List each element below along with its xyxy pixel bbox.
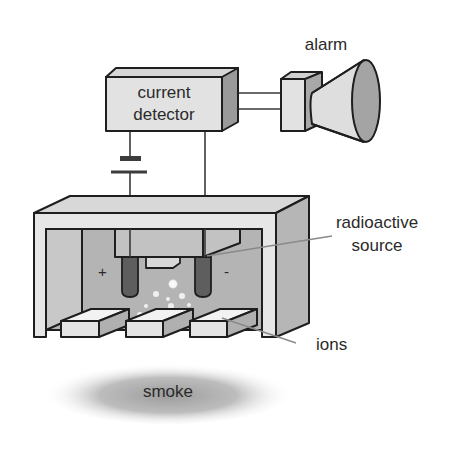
radioactive-source-block xyxy=(146,257,180,268)
alarm-label: alarm xyxy=(296,35,356,55)
radioactive-source-label-line2: source xyxy=(322,236,432,256)
chamber-baffles xyxy=(61,309,257,337)
radioactive-source-label-line1: radioactive xyxy=(322,213,432,233)
smoke-detector-diagram: alarm current detector radioactive sourc… xyxy=(0,0,452,451)
electrode-negative xyxy=(195,257,211,297)
negative-electrode-label: - xyxy=(224,262,229,282)
ions-label: ions xyxy=(316,335,347,355)
battery-icon xyxy=(111,156,147,174)
alarm-horn-icon xyxy=(281,60,380,142)
current-detector-label-line1: current xyxy=(106,83,222,103)
electrode-positive xyxy=(122,257,138,297)
smoke-label: smoke xyxy=(128,382,208,402)
positive-electrode-label: + xyxy=(98,262,107,282)
current-detector-label-line2: detector xyxy=(106,105,222,125)
